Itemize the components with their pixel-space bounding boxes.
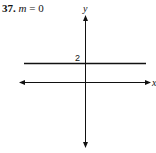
intercept-label: 2 (75, 53, 80, 63)
graph: y x 2 (0, 0, 156, 153)
x-axis-label: x (151, 77, 156, 88)
y-axis-label: y (82, 3, 88, 14)
